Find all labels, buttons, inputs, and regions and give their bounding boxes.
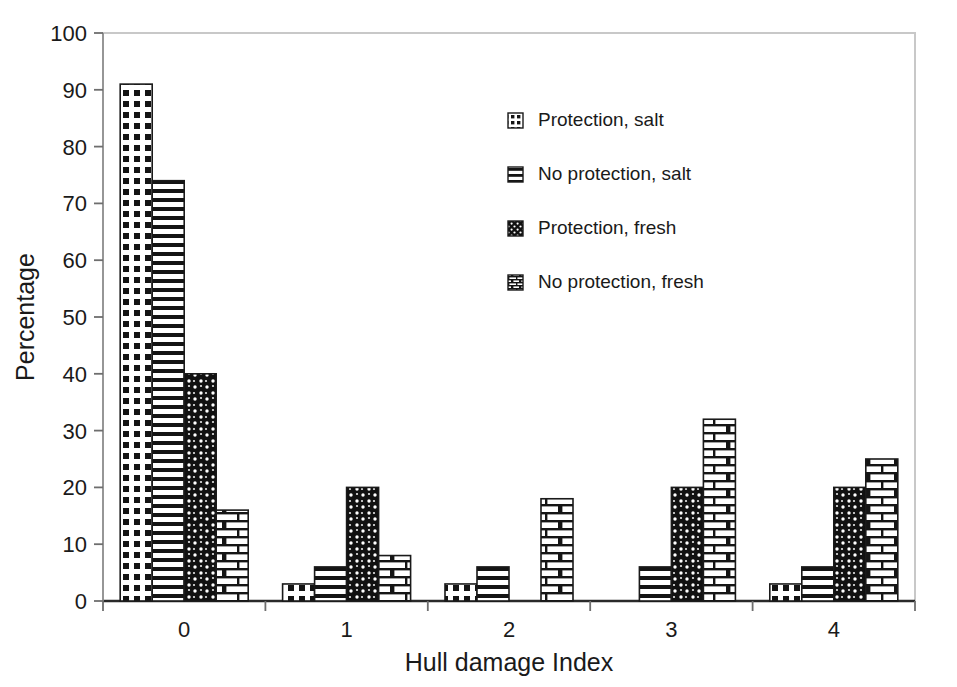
y-tick: 60 (63, 248, 103, 273)
bar (379, 556, 411, 601)
legend-swatch (508, 113, 523, 128)
legend-label: No protection, salt (538, 163, 692, 184)
legend-swatch (508, 221, 523, 236)
chart-container: 0102030405060708090100 01234 Hull damage… (0, 0, 957, 687)
y-tick-label: 30 (63, 419, 87, 444)
bar (477, 567, 509, 601)
bar (541, 499, 573, 601)
x-axis: 01234 (103, 601, 915, 642)
y-tick-label: 100 (50, 21, 87, 46)
bar (703, 419, 735, 601)
legend-label: Protection, salt (538, 109, 664, 130)
bar (120, 84, 152, 601)
y-axis-title: Percentage (11, 253, 39, 381)
y-axis: 0102030405060708090100 (50, 21, 103, 614)
legend-label: Protection, fresh (538, 217, 676, 238)
bar (802, 567, 834, 601)
bar (315, 567, 347, 601)
y-tick: 90 (63, 78, 103, 103)
x-tick-label: 3 (665, 617, 677, 642)
bar (347, 487, 379, 601)
legend-label: No protection, fresh (538, 271, 704, 292)
x-tick-label: 1 (340, 617, 352, 642)
y-tick: 70 (63, 191, 103, 216)
bar (671, 487, 703, 601)
y-tick: 30 (63, 419, 103, 444)
bar (866, 459, 898, 601)
y-tick: 100 (50, 21, 103, 46)
legend-entry: No protection, fresh (508, 271, 704, 292)
x-tick-label: 0 (178, 617, 190, 642)
y-tick: 50 (63, 305, 103, 330)
y-tick: 10 (63, 532, 103, 557)
bar (770, 584, 802, 601)
y-tick-label: 10 (63, 532, 87, 557)
y-tick-label: 20 (63, 475, 87, 500)
bar (216, 510, 248, 601)
x-tick-label: 4 (828, 617, 840, 642)
y-tick-label: 80 (63, 135, 87, 160)
bar-chart-figure: 0102030405060708090100 01234 Hull damage… (0, 0, 957, 687)
bar (184, 374, 216, 601)
legend-swatch (508, 275, 523, 290)
y-tick-label: 60 (63, 248, 87, 273)
y-tick-label: 0 (75, 589, 87, 614)
bar (445, 584, 477, 601)
bar (834, 487, 866, 601)
x-axis-title: Hull damage Index (405, 648, 614, 676)
y-tick-label: 70 (63, 191, 87, 216)
y-tick-label: 40 (63, 362, 87, 387)
bar (639, 567, 671, 601)
y-tick: 40 (63, 362, 103, 387)
y-tick: 20 (63, 475, 103, 500)
y-tick-label: 90 (63, 78, 87, 103)
x-tick-label: 2 (503, 617, 515, 642)
y-tick: 80 (63, 135, 103, 160)
bar (152, 181, 184, 601)
y-tick: 0 (75, 589, 103, 614)
legend-swatch (508, 167, 523, 182)
y-tick-label: 50 (63, 305, 87, 330)
bar (283, 584, 315, 601)
